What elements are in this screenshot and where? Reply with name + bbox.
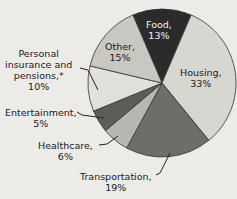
label-personal-l1: Personal <box>5 48 72 59</box>
label-other-name: Other, <box>105 41 135 52</box>
label-healthcare-name: Healthcare, <box>38 140 93 151</box>
label-personal-l3: pensions,* <box>5 70 72 81</box>
label-personal: Personal insurance and pensions,* 10% <box>5 48 72 92</box>
label-other: Other, 15% <box>105 41 135 63</box>
pie-chart <box>0 0 237 199</box>
label-food: Food, 13% <box>146 19 172 41</box>
label-housing-name: Housing, <box>180 67 222 78</box>
label-other-pct: 15% <box>105 52 135 63</box>
label-housing: Housing, 33% <box>180 67 222 89</box>
label-transportation-name: Transportation, <box>80 171 152 182</box>
label-food-name: Food, <box>146 19 172 30</box>
label-healthcare: Healthcare, 6% <box>38 140 93 162</box>
label-housing-pct: 33% <box>180 78 222 89</box>
label-entertainment-name: Entertainment, <box>5 107 77 118</box>
label-transportation-pct: 19% <box>80 182 152 193</box>
label-entertainment-pct: 5% <box>5 118 77 129</box>
label-food-pct: 13% <box>146 30 172 41</box>
label-healthcare-pct: 6% <box>38 151 93 162</box>
label-personal-pct: 10% <box>5 81 72 92</box>
label-entertainment: Entertainment, 5% <box>5 107 77 129</box>
label-personal-l2: insurance and <box>5 59 72 70</box>
label-transportation: Transportation, 19% <box>80 171 152 193</box>
